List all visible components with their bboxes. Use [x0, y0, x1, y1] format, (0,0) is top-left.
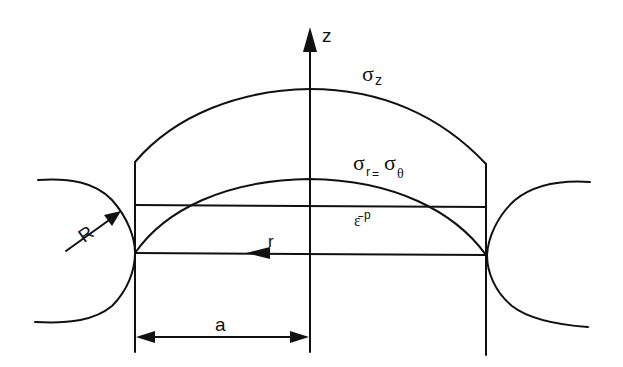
stress-diagram: z r σ z σ r = σ θ ε̄ p R a	[0, 0, 623, 367]
half-width-right-arrowhead-icon	[290, 331, 309, 343]
svg-text:θ: θ	[397, 166, 404, 181]
right-die-profile	[487, 182, 590, 327]
sigma-z-label: σ z	[362, 61, 382, 88]
sigma-r-theta-label: σ r = σ θ	[353, 150, 404, 181]
svg-text:ε̄: ε̄	[354, 212, 364, 229]
svg-text:σ: σ	[362, 61, 374, 86]
z-axis	[303, 27, 317, 352]
half-width-label: a	[215, 314, 226, 335]
r-axis-line	[135, 253, 486, 255]
z-axis-arrowhead-icon	[303, 27, 317, 52]
svg-text:=: =	[372, 167, 379, 181]
z-axis-label: z	[322, 25, 332, 46]
svg-text:σ: σ	[384, 150, 396, 175]
svg-text:z: z	[375, 72, 382, 88]
radius-arrowhead-icon	[104, 211, 121, 226]
svg-text:p: p	[364, 208, 371, 222]
svg-text:r: r	[366, 164, 371, 179]
left-die-profile	[35, 180, 135, 323]
half-width-left-arrowhead-icon	[136, 331, 155, 343]
svg-text:σ: σ	[353, 150, 365, 175]
eps-p-label: ε̄ p	[354, 208, 371, 229]
r-axis-arrowhead-icon	[246, 247, 270, 259]
r-axis-label: r	[268, 232, 274, 251]
